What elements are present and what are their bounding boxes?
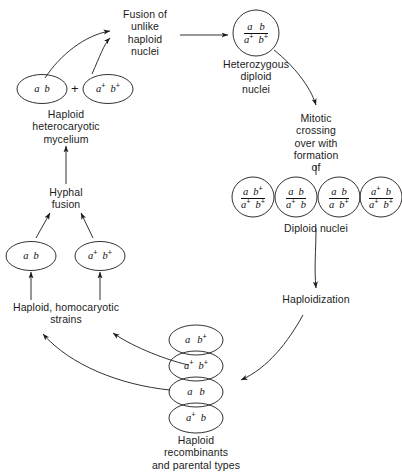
genotype-heterocaryotic-ab: ab xyxy=(17,83,67,94)
genotype-haploid-2: a+b+ xyxy=(171,360,221,371)
genotype-diploid-2: ab a+b xyxy=(275,186,317,210)
label-mitotic-crossing-over: Mitotic crossing over with formation of xyxy=(286,112,346,173)
label-haploid-heterocaryotic-mycelium: Haploid heterocaryotic mycelium xyxy=(11,108,121,145)
genotype-diploid-3: ab ab+ xyxy=(318,186,360,210)
genotype-heterozygous-diploid: ab a+b+ xyxy=(233,21,279,45)
label-diploid-nuclei: Diploid nuclei xyxy=(266,222,366,234)
label-fusion-of-unlike-haploid-nuclei: Fusion of unlike haploid nuclei xyxy=(110,8,180,57)
label-haploidization: Haploidization xyxy=(266,293,366,305)
plus-operator: + xyxy=(71,81,79,96)
genotype-haploid-4: a+b xyxy=(171,412,221,423)
genotype-haploid-3: ab xyxy=(171,386,221,397)
genotype-diploid-4: a+b a+b+ xyxy=(360,186,402,210)
genotype-homocaryotic-aplusbplus: a+b+ xyxy=(75,250,125,261)
label-hyphal-fusion: Hyphal fusion xyxy=(36,186,96,211)
label-haploid-recombinants-and-parental-types: Haploid recombinants and parental types xyxy=(126,434,266,471)
label-haploid-homocaryotic-strains: Haploid, homocaryotic strains xyxy=(1,301,131,326)
genotype-diploid-1: ab+ a+b+ xyxy=(232,186,274,210)
genotype-heterocaryotic-aplusbplus: a+b+ xyxy=(83,83,133,94)
genotype-haploid-1: ab+ xyxy=(171,334,221,345)
label-heterozygous-diploid-nuclei: Heterozygous diploid nuclei xyxy=(216,58,296,95)
genotype-homocaryotic-ab: ab xyxy=(6,250,56,261)
